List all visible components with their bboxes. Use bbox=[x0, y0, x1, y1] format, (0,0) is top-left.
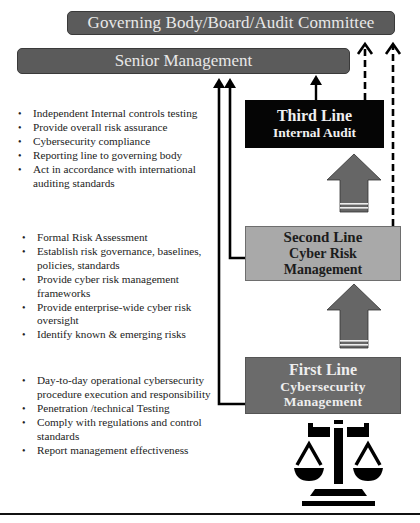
first-line-box: First Line Cybersecurity Management bbox=[245, 357, 401, 414]
third-line-to-senior-connector bbox=[310, 75, 322, 100]
second-line-box: Second Line Cyber Risk Management bbox=[245, 226, 401, 281]
list-item: Independent Internal controls testing bbox=[18, 107, 218, 121]
list-item: Reporting line to governing body bbox=[18, 149, 218, 163]
second-to-third-up-arrow-icon bbox=[327, 154, 381, 212]
list-item: Provide overall risk assurance bbox=[18, 121, 218, 135]
third-line-responsibilities: Independent Internal controls testing Pr… bbox=[18, 107, 218, 190]
bottom-divider bbox=[0, 513, 420, 515]
list-item: Cybersecurity compliance bbox=[18, 135, 218, 149]
list-item: Act in accordance with international aud… bbox=[18, 163, 218, 191]
second-line-to-senior-connector bbox=[224, 78, 245, 258]
first-to-second-up-arrow-icon bbox=[327, 284, 381, 348]
second-line-subtitle-2: Management bbox=[284, 262, 363, 278]
list-item: Report management effectiveness bbox=[22, 444, 212, 458]
third-line-box: Third Line Internal Audit bbox=[245, 100, 384, 148]
governing-body-box: Governing Body/Board/Audit Committee bbox=[67, 11, 395, 35]
list-item: Formal Risk Assessment bbox=[22, 231, 212, 245]
list-item: Identify known & emerging risks bbox=[22, 328, 212, 342]
first-line-subtitle-2: Management bbox=[284, 394, 363, 409]
second-line-title: Second Line bbox=[284, 229, 363, 246]
list-item: Day-to-day operational cybersecurity pro… bbox=[22, 374, 212, 402]
list-item: Provide cyber risk management frameworks bbox=[22, 273, 212, 301]
senior-management-box: Senior Management bbox=[17, 48, 350, 74]
second-line-responsibilities: Formal Risk Assessment Establish risk go… bbox=[22, 231, 212, 342]
list-item: Comply with regulations and control stan… bbox=[22, 416, 212, 444]
third-line-to-governing-dashed-connector bbox=[358, 44, 372, 100]
first-line-title: First Line bbox=[289, 361, 357, 379]
list-item: Penetration /technical Testing bbox=[22, 402, 212, 416]
senior-management-label: Senior Management bbox=[115, 51, 252, 71]
scales-of-justice-icon bbox=[294, 420, 383, 506]
third-line-subtitle: Internal Audit bbox=[273, 125, 356, 140]
second-line-to-governing-dashed-connector bbox=[386, 44, 400, 226]
list-item: Establish risk governance, baselines, po… bbox=[22, 245, 212, 273]
first-line-responsibilities: Day-to-day operational cybersecurity pro… bbox=[22, 374, 212, 457]
third-line-title: Third Line bbox=[277, 107, 352, 125]
list-item: Provide enterprise-wide cyber risk overs… bbox=[22, 301, 212, 329]
second-line-subtitle-1: Cyber Risk bbox=[289, 246, 357, 262]
governing-body-label: Governing Body/Board/Audit Committee bbox=[88, 13, 375, 33]
first-line-subtitle-1: Cybersecurity bbox=[280, 379, 366, 394]
